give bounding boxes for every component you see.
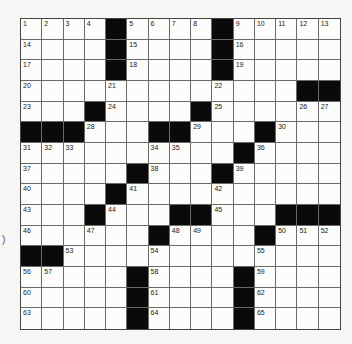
crossword-cell[interactable]	[170, 184, 191, 205]
crossword-cell[interactable]: 25	[212, 102, 233, 123]
crossword-cell[interactable]	[85, 40, 106, 61]
crossword-cell[interactable]	[42, 184, 63, 205]
crossword-cell[interactable]	[127, 102, 148, 123]
crossword-cell[interactable]	[85, 184, 106, 205]
crossword-cell[interactable]	[127, 205, 148, 226]
crossword-cell[interactable]: 17	[21, 60, 42, 81]
crossword-cell[interactable]	[234, 205, 255, 226]
crossword-cell[interactable]: 64	[149, 308, 170, 329]
crossword-cell[interactable]	[85, 288, 106, 309]
crossword-cell[interactable]	[191, 81, 212, 102]
crossword-cell[interactable]: 9	[234, 19, 255, 40]
crossword-cell[interactable]	[297, 308, 318, 329]
crossword-cell[interactable]	[64, 205, 85, 226]
crossword-cell[interactable]: 63	[21, 308, 42, 329]
crossword-cell[interactable]	[170, 288, 191, 309]
crossword-cell[interactable]	[106, 267, 127, 288]
crossword-cell[interactable]	[127, 226, 148, 247]
crossword-cell[interactable]: 65	[255, 308, 276, 329]
crossword-cell[interactable]	[85, 267, 106, 288]
crossword-cell[interactable]: 56	[21, 267, 42, 288]
crossword-cell[interactable]	[191, 143, 212, 164]
crossword-cell[interactable]: 46	[21, 226, 42, 247]
crossword-cell[interactable]	[42, 226, 63, 247]
crossword-cell[interactable]	[127, 143, 148, 164]
crossword-cell[interactable]: 30	[276, 122, 297, 143]
crossword-cell[interactable]	[276, 102, 297, 123]
crossword-cell[interactable]	[297, 143, 318, 164]
crossword-cell[interactable]	[276, 164, 297, 185]
crossword-cell[interactable]: 6	[149, 19, 170, 40]
crossword-cell[interactable]: 38	[149, 164, 170, 185]
crossword-cell[interactable]: 19	[234, 60, 255, 81]
crossword-cell[interactable]	[170, 60, 191, 81]
crossword-cell[interactable]	[191, 308, 212, 329]
crossword-cell[interactable]: 47	[85, 226, 106, 247]
crossword-cell[interactable]: 59	[255, 267, 276, 288]
crossword-cell[interactable]	[42, 60, 63, 81]
crossword-cell[interactable]	[276, 143, 297, 164]
crossword-cell[interactable]	[191, 40, 212, 61]
crossword-cell[interactable]	[212, 122, 233, 143]
crossword-cell[interactable]	[319, 288, 340, 309]
crossword-cell[interactable]: 42	[212, 184, 233, 205]
crossword-cell[interactable]: 52	[319, 226, 340, 247]
crossword-cell[interactable]	[64, 164, 85, 185]
crossword-cell[interactable]	[85, 81, 106, 102]
crossword-cell[interactable]	[127, 122, 148, 143]
crossword-cell[interactable]	[106, 226, 127, 247]
crossword-cell[interactable]: 43	[21, 205, 42, 226]
crossword-cell[interactable]: 48	[170, 226, 191, 247]
crossword-cell[interactable]	[64, 102, 85, 123]
crossword-cell[interactable]: 45	[212, 205, 233, 226]
crossword-cell[interactable]	[297, 122, 318, 143]
crossword-cell[interactable]	[42, 81, 63, 102]
crossword-cell[interactable]	[234, 246, 255, 267]
crossword-cell[interactable]: 60	[21, 288, 42, 309]
crossword-cell[interactable]	[127, 246, 148, 267]
crossword-cell[interactable]	[297, 60, 318, 81]
crossword-cell[interactable]	[276, 288, 297, 309]
crossword-cell[interactable]	[106, 308, 127, 329]
crossword-cell[interactable]	[64, 60, 85, 81]
crossword-cell[interactable]	[234, 122, 255, 143]
crossword-cell[interactable]	[212, 288, 233, 309]
crossword-cell[interactable]	[255, 184, 276, 205]
crossword-cell[interactable]	[319, 40, 340, 61]
crossword-cell[interactable]: 16	[234, 40, 255, 61]
crossword-cell[interactable]: 54	[149, 246, 170, 267]
crossword-cell[interactable]	[170, 308, 191, 329]
crossword-cell[interactable]	[297, 267, 318, 288]
crossword-cell[interactable]	[212, 143, 233, 164]
crossword-cell[interactable]: 44	[106, 205, 127, 226]
crossword-cell[interactable]: 28	[85, 122, 106, 143]
crossword-cell[interactable]	[106, 246, 127, 267]
crossword-cell[interactable]	[42, 164, 63, 185]
crossword-cell[interactable]: 5	[127, 19, 148, 40]
crossword-cell[interactable]	[255, 205, 276, 226]
crossword-cell[interactable]	[64, 226, 85, 247]
crossword-cell[interactable]: 34	[149, 143, 170, 164]
crossword-cell[interactable]: 31	[21, 143, 42, 164]
crossword-cell[interactable]	[191, 60, 212, 81]
crossword-cell[interactable]: 24	[106, 102, 127, 123]
crossword-cell[interactable]: 3	[64, 19, 85, 40]
crossword-cell[interactable]	[297, 288, 318, 309]
crossword-cell[interactable]	[42, 205, 63, 226]
crossword-cell[interactable]	[255, 81, 276, 102]
crossword-cell[interactable]	[106, 143, 127, 164]
crossword-cell[interactable]	[234, 184, 255, 205]
crossword-cell[interactable]	[212, 267, 233, 288]
crossword-cell[interactable]	[319, 267, 340, 288]
crossword-cell[interactable]: 14	[21, 40, 42, 61]
crossword-cell[interactable]	[42, 40, 63, 61]
crossword-cell[interactable]	[234, 226, 255, 247]
crossword-cell[interactable]	[276, 81, 297, 102]
crossword-cell[interactable]: 23	[21, 102, 42, 123]
crossword-cell[interactable]	[64, 288, 85, 309]
crossword-cell[interactable]	[276, 308, 297, 329]
crossword-cell[interactable]: 39	[234, 164, 255, 185]
crossword-cell[interactable]	[319, 308, 340, 329]
crossword-cell[interactable]: 13	[319, 19, 340, 40]
crossword-cell[interactable]: 55	[255, 246, 276, 267]
